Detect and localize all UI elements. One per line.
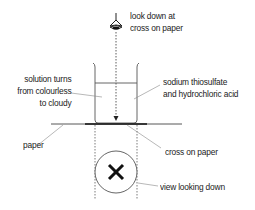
reagents-label: sodium thiosulfate and hydrochloric acid xyxy=(163,76,238,100)
cross-on-paper-label: cross on paper xyxy=(165,146,218,158)
view-looking-down-label: view looking down xyxy=(160,181,225,193)
sight-arrowhead xyxy=(114,116,119,121)
look-down-label: look down at cross on paper xyxy=(130,10,183,34)
solution-turns-label: solution turns from colourless to cloudy xyxy=(17,73,71,109)
eye-icon xyxy=(110,13,122,30)
paper-label: paper xyxy=(23,139,44,151)
